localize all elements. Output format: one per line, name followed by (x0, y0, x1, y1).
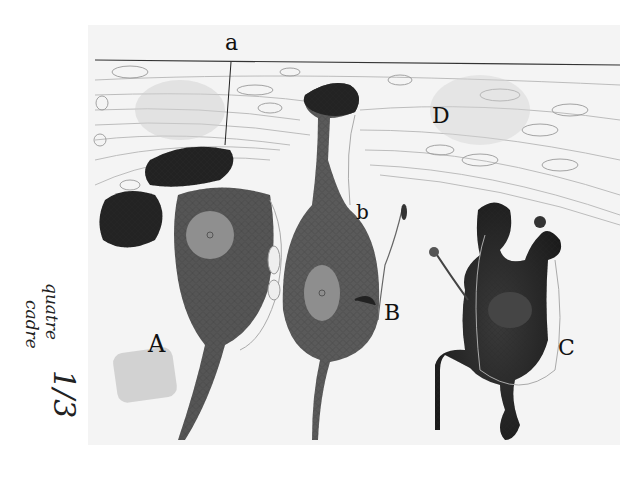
membrane-line (95, 60, 620, 65)
label-upper-c: C (558, 335, 575, 360)
cell-c (429, 203, 561, 441)
smudge (112, 346, 178, 404)
label-upper-a: A (148, 330, 165, 358)
handwritten-note-line2: cadre (22, 300, 42, 349)
histology-drawing (0, 0, 623, 483)
shade (135, 80, 225, 140)
label-d: D (432, 103, 450, 128)
label-b-lower: b (356, 200, 369, 224)
pointer-line-a (225, 62, 231, 145)
handwritten-note-line1: quatre (42, 283, 62, 340)
cell-b (283, 83, 407, 440)
label-upper-b: B (384, 300, 400, 325)
nucleus (186, 211, 234, 259)
label-a-lower: a (225, 30, 238, 55)
nucleus (488, 292, 532, 328)
handwritten-note-fraction: 1/3 (47, 370, 82, 418)
nucleus (304, 265, 340, 321)
